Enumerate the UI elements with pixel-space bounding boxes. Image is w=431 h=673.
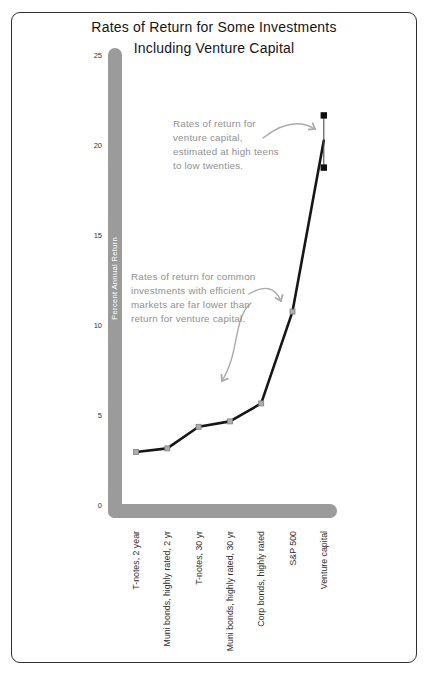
- data-point-marker: [165, 446, 170, 451]
- annotation-venture-capital: Rates of return for venture capital, est…: [173, 117, 279, 173]
- figure-page: Rates of Return for Some Investments Inc…: [0, 0, 431, 673]
- x-axis-label: T-notes, 2 year: [131, 531, 142, 590]
- y-tick-label: 5: [60, 411, 102, 421]
- x-axis-bar: [108, 504, 337, 518]
- venture-capital-range-marker: [321, 112, 327, 118]
- data-point-marker: [259, 401, 264, 406]
- data-point-marker: [196, 424, 201, 429]
- y-tick-label: 25: [60, 51, 102, 61]
- x-axis-label: Venture capital: [319, 531, 330, 589]
- x-axis-label: T-notes, 30 yr: [194, 531, 205, 585]
- venture-capital-range-marker: [321, 164, 327, 170]
- data-point-marker: [227, 419, 232, 424]
- data-point-marker: [290, 309, 295, 314]
- x-axis-label: S&P 500: [288, 531, 299, 566]
- x-axis-label: Muni bonds, highly rated, 2 yr: [162, 531, 173, 646]
- data-point-marker: [134, 450, 139, 455]
- x-axis-label: Muni bonds, highly rated, 30 yr: [225, 531, 236, 651]
- chart-canvas: [0, 0, 431, 673]
- y-tick-label: 0: [60, 501, 102, 511]
- y-tick-label: 15: [60, 231, 102, 241]
- y-tick-label: 20: [60, 141, 102, 151]
- x-axis-label: Corp bonds, highly rated: [256, 531, 267, 627]
- y-axis-label: Percent Annual Return: [110, 237, 119, 320]
- y-tick-label: 10: [60, 321, 102, 331]
- annotation-common-investments: Rates of return for common investments w…: [131, 270, 255, 326]
